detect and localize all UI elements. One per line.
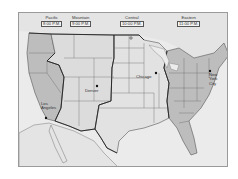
denver-label: Denver	[85, 89, 99, 93]
chicago-label: Chicago	[136, 75, 151, 79]
eastern-time-label: Eastern 11:00 P.M.	[177, 16, 200, 27]
us-map-graphic	[19, 13, 228, 167]
mountain-time-label: Mountain 9:00 P.M.	[70, 16, 91, 27]
pacific-time-label: Pacific 8:00 P.M.	[41, 16, 62, 27]
chicago-marker	[155, 72, 157, 74]
denver-marker	[96, 85, 98, 87]
time-zone-map: Pacific 8:00 P.M. Mountain 9:00 P.M. Cen…	[18, 12, 228, 167]
central-time-label: Central 10:00 P.M.	[120, 16, 144, 27]
los-angeles-label: Los Angeles	[41, 102, 63, 111]
new-york-city-label: New York City	[209, 73, 225, 86]
eastern-zone	[164, 43, 228, 155]
los-angeles-marker	[45, 117, 47, 119]
